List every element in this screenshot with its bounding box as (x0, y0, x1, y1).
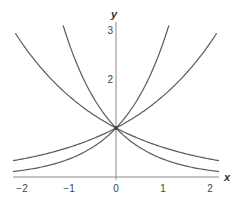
intersection-point (114, 126, 118, 130)
x-tick-label: 1 (160, 183, 166, 194)
x-tick-label: −2 (16, 183, 28, 194)
y-axis-label: y (110, 8, 118, 20)
exponential-chart: −2 −1 0 1 2 2 3 x y (0, 0, 242, 198)
x-tick-label: −1 (63, 183, 75, 194)
y-tick-label: 3 (107, 25, 113, 36)
curve-e-x-2- (15, 33, 219, 160)
y-tick-label: 2 (107, 74, 113, 85)
curve-e-x-2- (13, 33, 217, 160)
curve-e-x (63, 25, 219, 171)
x-axis-label: x (223, 171, 231, 183)
curve-e-x (13, 25, 169, 171)
x-tick-label: 0 (113, 183, 119, 194)
x-tick-label: 2 (207, 183, 213, 194)
